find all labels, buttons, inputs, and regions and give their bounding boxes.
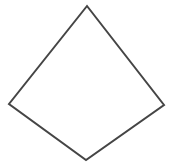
kite-diagram: [0, 0, 173, 163]
kite-shape: [9, 6, 164, 160]
diagram-canvas: [0, 0, 173, 163]
